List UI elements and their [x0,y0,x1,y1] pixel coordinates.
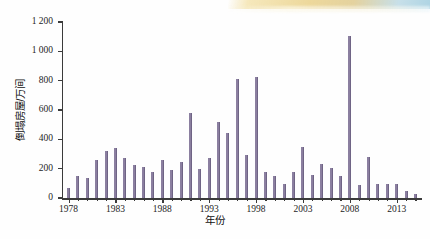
bar [358,185,361,198]
bar [395,184,398,198]
bar [142,167,145,198]
x-axis-tick [284,198,285,201]
x-axis-tick [378,198,379,201]
x-axis-tick [312,198,313,201]
y-axis-tick-label: 800 [0,76,53,85]
x-axis-tick [359,198,360,201]
bar [348,36,351,198]
x-axis-tick [125,198,126,201]
bar [226,133,229,198]
y-axis-tick [58,51,63,52]
y-axis-tick [58,109,63,110]
x-axis-tick [237,198,238,201]
x-axis-tick [369,198,370,201]
x-axis-tick-major [397,198,398,203]
bar [283,184,286,198]
x-axis-tick [181,198,182,201]
bar [255,77,258,198]
page-scan-artifact-glow [228,6,430,12]
plot-area: 02004006008001 0001 200 1978198319881993… [62,22,422,198]
bar [376,184,379,198]
x-axis-tick-major [69,198,70,203]
x-axis-tick [265,198,266,201]
bar [76,176,79,198]
y-axis-tick-label: 400 [0,134,53,143]
x-axis-tick [153,198,154,201]
x-axis-tick-major [256,198,257,203]
bar [105,151,108,198]
x-axis-tick [200,198,201,201]
x-axis-tick [78,198,79,201]
bar [133,165,136,198]
x-axis-tick [172,198,173,201]
bar [245,155,248,198]
x-axis-tick [294,198,295,201]
x-axis-title: 年份 [0,212,430,227]
bar [123,158,126,198]
y-axis-tick [58,139,63,140]
x-axis-tick [97,198,98,201]
x-axis-tick [190,198,191,201]
x-axis-tick [340,198,341,201]
bar [386,184,389,198]
bar [320,164,323,198]
y-axis-tick [58,21,63,22]
bar [180,162,183,198]
y-axis-tick-label: 1 200 [0,17,53,26]
bar [292,172,295,198]
x-axis-tick-major [162,198,163,203]
y-axis-tick [58,197,63,198]
bar [273,176,276,198]
y-axis-tick-label: 1 000 [0,46,53,55]
bar [170,170,173,198]
bar [67,188,70,198]
x-axis-tick [275,198,276,201]
bar [339,176,342,198]
x-axis-tick [331,198,332,201]
x-axis-tick [219,198,220,201]
x-axis-tick [134,198,135,201]
y-axis-tick-label: 600 [0,105,53,114]
x-axis-tick [387,198,388,201]
y-axis-tick-label: 200 [0,164,53,173]
bar [414,194,417,198]
x-axis-tick [322,198,323,201]
bar [86,178,89,198]
x-axis-tick-major [303,198,304,203]
bar [311,175,314,198]
bar [217,122,220,198]
x-axis-tick-major [209,198,210,203]
x-axis-tick [247,198,248,201]
y-axis-tick [58,168,63,169]
x-axis-tick [87,198,88,201]
x-axis-tick [228,198,229,201]
x-axis-tick [144,198,145,201]
bar [301,147,304,198]
y-axis-tick [58,80,63,81]
bar [151,172,154,198]
chart-figure: 倒塌房屋/万间 02004006008001 0001 200 19781983… [0,0,430,239]
bar [161,160,164,198]
bar [198,169,201,198]
x-axis-tick [406,198,407,201]
x-axis-tick [106,198,107,201]
bar [367,157,370,198]
bar [405,191,408,198]
bar [264,172,267,198]
bar [236,79,239,198]
x-axis-tick-major [350,198,351,203]
bar [189,113,192,198]
x-axis-tick-major [115,198,116,203]
y-axis-tick-label: 0 [0,193,53,202]
x-axis-tick [415,198,416,201]
bar [95,160,98,198]
bar [114,148,117,198]
bar [208,158,211,198]
bar [330,168,333,198]
